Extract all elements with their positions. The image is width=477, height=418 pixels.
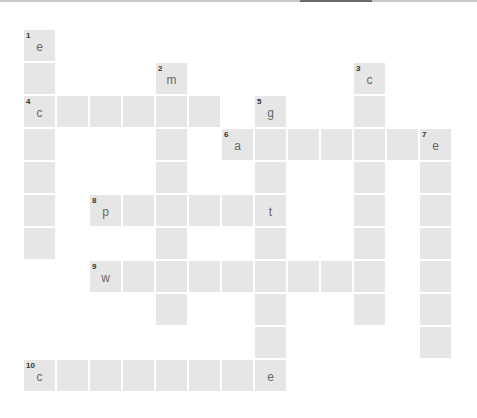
grid-cell[interactable]: 3c (354, 63, 385, 94)
grid-cell[interactable] (24, 129, 55, 160)
grid-cell[interactable] (420, 327, 451, 358)
cell-letter: e (420, 129, 451, 160)
grid-cell[interactable]: 10c (24, 360, 55, 391)
cell-letter: c (354, 63, 385, 94)
grid-cell[interactable] (354, 261, 385, 292)
grid-cell[interactable]: t (255, 195, 286, 226)
grid-cell[interactable]: 8p (90, 195, 121, 226)
grid-cell[interactable] (156, 261, 187, 292)
grid-cell[interactable] (189, 195, 220, 226)
grid-cell[interactable] (222, 195, 253, 226)
cell-letter: g (255, 96, 286, 127)
grid-cell[interactable]: 2m (156, 63, 187, 94)
grid-cell[interactable] (255, 228, 286, 259)
grid-cell[interactable] (354, 162, 385, 193)
grid-cell[interactable] (222, 360, 253, 391)
grid-cell[interactable] (90, 360, 121, 391)
grid-cell[interactable]: 5g (255, 96, 286, 127)
grid-cell[interactable] (123, 96, 154, 127)
grid-cell[interactable]: 1e (24, 30, 55, 61)
cell-letter: t (255, 195, 286, 226)
grid-cell[interactable] (288, 261, 319, 292)
grid-cell[interactable] (156, 360, 187, 391)
grid-cell[interactable] (354, 294, 385, 325)
crossword-grid: 1e4c2m3c5gte6a7e8p9w10c (0, 0, 477, 418)
cell-letter: a (222, 129, 253, 160)
grid-cell[interactable]: e (255, 360, 286, 391)
grid-cell[interactable] (420, 261, 451, 292)
grid-cell[interactable] (90, 96, 121, 127)
grid-cell[interactable] (24, 228, 55, 259)
grid-cell[interactable] (420, 228, 451, 259)
grid-cell[interactable] (189, 96, 220, 127)
grid-cell[interactable] (123, 261, 154, 292)
grid-cell[interactable] (255, 294, 286, 325)
cell-letter: e (255, 360, 286, 391)
grid-cell[interactable] (123, 360, 154, 391)
cell-letter: e (24, 30, 55, 61)
grid-cell[interactable]: 7e (420, 129, 451, 160)
grid-cell[interactable] (156, 195, 187, 226)
grid-cell[interactable] (156, 162, 187, 193)
grid-cell[interactable] (354, 129, 385, 160)
grid-cell[interactable] (255, 129, 286, 160)
grid-cell[interactable] (156, 228, 187, 259)
grid-cell[interactable] (255, 261, 286, 292)
grid-cell[interactable] (354, 195, 385, 226)
grid-cell[interactable] (420, 195, 451, 226)
cell-letter: c (24, 360, 55, 391)
grid-cell[interactable] (255, 327, 286, 358)
cell-letter: m (156, 63, 187, 94)
grid-cell[interactable] (222, 261, 253, 292)
grid-cell[interactable]: 9w (90, 261, 121, 292)
grid-cell[interactable] (57, 96, 88, 127)
grid-cell[interactable] (24, 63, 55, 94)
grid-cell[interactable] (255, 162, 286, 193)
grid-cell[interactable] (156, 129, 187, 160)
grid-cell[interactable] (354, 228, 385, 259)
grid-cell[interactable] (387, 129, 418, 160)
grid-cell[interactable] (156, 96, 187, 127)
grid-cell[interactable] (321, 261, 352, 292)
grid-cell[interactable] (57, 360, 88, 391)
grid-cell[interactable] (321, 129, 352, 160)
cell-letter: w (90, 261, 121, 292)
grid-cell[interactable] (189, 261, 220, 292)
grid-cell[interactable] (156, 294, 187, 325)
grid-cell[interactable]: 6a (222, 129, 253, 160)
grid-cell[interactable] (354, 96, 385, 127)
cell-letter: c (24, 96, 55, 127)
grid-cell[interactable] (288, 129, 319, 160)
cell-letter: p (90, 195, 121, 226)
grid-cell[interactable] (420, 294, 451, 325)
grid-cell[interactable] (189, 360, 220, 391)
grid-cell[interactable] (24, 195, 55, 226)
grid-cell[interactable] (123, 195, 154, 226)
grid-cell[interactable] (420, 162, 451, 193)
grid-cell[interactable]: 4c (24, 96, 55, 127)
grid-cell[interactable] (24, 162, 55, 193)
